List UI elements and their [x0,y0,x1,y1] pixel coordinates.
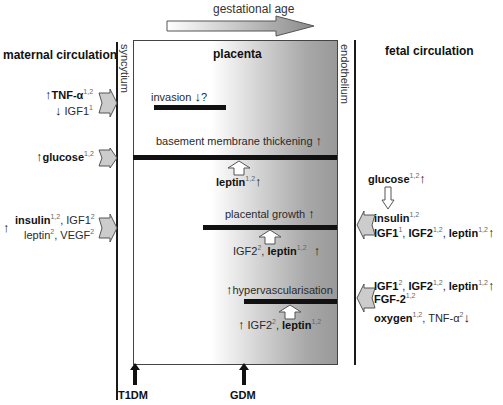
gestational-age-arrow-icon [166,15,316,37]
maternal-igf1: ↓ IGF11 [55,104,93,118]
placental-growth-factors: IGF22, leptin1,2 ↑ [233,244,320,258]
fetal-input-arrow-icon [356,210,376,240]
fetal-circulation-heading: fetal circulation [385,44,474,58]
t1dm-label: T1DM [118,389,148,401]
maternal-input-arrow-icon [98,147,118,169]
up-arrow-icon: ↑ [316,133,323,148]
maternal-input-arrow-icon [98,213,118,243]
fetal-input-arrow-icon [356,283,376,313]
fetal-oxygen-tnf: oxygen1,2, TNF-α2↓ [374,311,470,325]
gdm-marker-arrow-icon [238,363,250,385]
maternal-tnf: ↑TNF-α1,2 [45,88,93,102]
up-arrow-icon: ↑ [314,243,321,258]
maternal-insulin: insulin1,2, IGF12 [15,214,95,227]
fetal-insulin: insulin1,2 [374,212,419,225]
placental-growth-label: placental growth ↑ [225,207,315,221]
fetal-igf-leptin-2: IGF12, IGF21,2, leptin1,2↑ [374,279,494,293]
down-arrow-icon: ↓ [55,103,62,118]
maternal-glucose: ↑glucose1,2 [36,150,94,164]
syncytium-label: syncytium [119,44,131,93]
t1dm-marker-arrow-icon [129,363,141,385]
invasion-label: invasion ↓? [151,90,207,104]
hypervascularisation-factors: ↑ IGF22, leptin1,2 [238,318,321,332]
maternal-input-arrow-icon [98,88,118,118]
maternal-leptin-vegf: leptin2, VEGF2 [24,229,94,242]
up-arrow-icon: ↑ [3,220,10,235]
endothelium-label: endothelium [339,44,351,104]
up-arrow-icon: ↑ [488,278,495,293]
leptin-factor-1: leptin1,2↑ [216,175,262,189]
fetal-igf-leptin: IGF11, IGF21,2, leptin1,2↑ [374,226,494,240]
basement-membrane-label: basement membrane thickening ↑ [156,134,322,148]
placenta-region [133,40,338,365]
hollow-up-arrow-icon [258,229,282,245]
fetal-fgf2: FGF-21,2 [374,293,416,306]
up-arrow-icon: ↑ [255,174,262,189]
maternal-circulation-heading: maternal circulation [3,48,117,62]
placenta-heading: placenta [213,47,262,61]
down-arrow-icon: ↓ [463,310,470,325]
up-arrow-icon: ↑ [308,206,315,221]
gdm-label: GDM [230,389,256,401]
up-arrow-icon: ↑ [238,317,245,332]
hollow-up-arrow-icon [227,160,251,176]
fetal-glucose: glucose1,2↑ [368,172,426,186]
endothelium-line [354,40,356,365]
hollow-down-arrow-icon [381,186,395,210]
up-arrow-icon: ↑ [419,171,426,186]
up-arrow-icon: ↑ [488,225,495,240]
invasion-bar [154,105,226,110]
hypervascularisation-label: ↑hypervascularisation [226,283,333,297]
